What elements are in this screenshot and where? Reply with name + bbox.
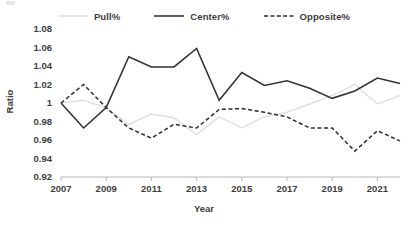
line-chart: Pull% Center% Opposite% Ratio Year 1.081… — [0, 0, 408, 228]
axis-lines — [61, 177, 400, 181]
data-series-layer — [61, 48, 400, 151]
plot-area — [0, 0, 408, 228]
series-line-center — [61, 48, 400, 128]
